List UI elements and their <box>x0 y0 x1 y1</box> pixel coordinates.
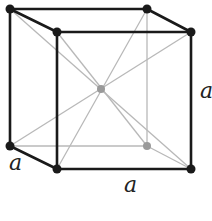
corner-atom <box>187 165 196 174</box>
body-center-atom <box>97 85 105 93</box>
depth-label: a <box>9 152 22 174</box>
corner-atom <box>53 165 62 174</box>
corner-atom <box>6 5 15 14</box>
corner-atom <box>53 28 62 37</box>
bcc-unit-cell-diagram: a a a <box>0 0 212 221</box>
corner-atom <box>143 5 152 14</box>
hidden-corner-atom <box>143 142 151 150</box>
cube-drawing <box>0 0 212 221</box>
corner-atom <box>187 28 196 37</box>
width-label: a <box>124 174 137 196</box>
height-label: a <box>200 80 212 102</box>
